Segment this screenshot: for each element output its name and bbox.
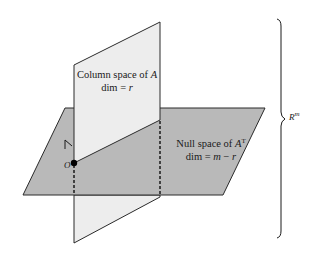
ambient-space-label: Rm	[289, 111, 300, 124]
column-space-label: Column space of A dim = r	[74, 68, 160, 94]
null-space-title: Null space of AT	[166, 137, 256, 150]
subspaces-diagram: Column space of A dim = r Null space of …	[0, 0, 314, 262]
null-space-label: Null space of AT dim = m − r	[166, 137, 256, 163]
origin-label: O	[64, 159, 71, 172]
brace-icon	[277, 19, 285, 238]
null-space-dim: dim = m − r	[166, 150, 256, 163]
column-space-title: Column space of A	[74, 68, 160, 81]
origin-point	[71, 160, 77, 166]
column-space-dim: dim = r	[74, 81, 160, 94]
column-space-plane-lower	[74, 195, 160, 243]
